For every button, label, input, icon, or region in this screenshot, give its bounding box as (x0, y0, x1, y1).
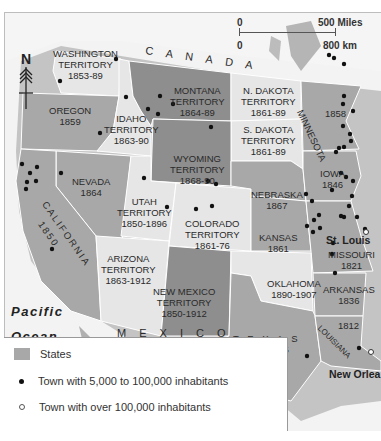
scale-miles-zero: 0 (237, 17, 243, 28)
region-idaho: IDAHOTERRITORY1863-90 (104, 113, 159, 146)
region-oklahoma: OKLAHOMA1890-1907 (267, 278, 321, 300)
city-new-orleans: New Orlea (329, 368, 380, 380)
filled-dot-icon (19, 379, 24, 384)
region-kansas: KANSAS1861 (259, 232, 298, 254)
region-colorado: COLORADOTERRITORY1861-76 (185, 218, 240, 251)
legend-item-town-large: Town with over 100,000 inhabitants (14, 401, 211, 413)
label-pacific: Pacific (11, 304, 63, 319)
region-iowa: IOWA1846 (320, 168, 345, 190)
compass: N (19, 51, 33, 113)
legend-item-town-small: Town with 5,000 to 100,000 inhabitants (14, 375, 228, 387)
legend: States Town with 5,000 to 100,000 inhabi… (4, 337, 288, 431)
region-ndakota: N. DAKOTATERRITORY1861-89 (241, 85, 296, 118)
states-swatch-icon (14, 348, 30, 360)
region-washington: WASHINGTONTERRITORY1853-89 (53, 48, 118, 81)
region-louisiana-year: 1812 (338, 320, 359, 331)
scale-km-zero: 0 (237, 40, 243, 51)
region-nebraska: NEBRASKA1867 (251, 189, 303, 211)
region-newmexico: NEW MEXICOTERRITORY1850-1912 (153, 286, 215, 319)
region-sdakota: S. DAKOTATERRITORY1861-89 (241, 124, 296, 157)
region-utah: UTAHTERRITORY1850-1896 (117, 196, 172, 229)
region-nevada: NEVADA1864 (72, 176, 110, 198)
scale-miles-label: 500 Miles (318, 17, 362, 28)
region-arkansas: ARKANSAS1836 (323, 284, 375, 306)
north-label: N (19, 51, 33, 67)
region-arizona: ARIZONATERRITORY1863-1912 (101, 253, 156, 286)
north-arrow-icon (19, 67, 33, 109)
region-missouri: MISSOURI1821 (328, 249, 375, 271)
region-oregon: OREGON1859 (49, 105, 91, 127)
region-wyoming: WYOMINGTERRITORY1868-90 (170, 153, 225, 186)
scale-km-label: 800 km (323, 40, 357, 51)
open-dot-icon (19, 404, 25, 410)
region-minnesota-year: 1858 (325, 108, 346, 119)
region-montana: MONTANATERRITORY1864-89 (170, 85, 225, 118)
city-st-louis: St. Louis (326, 234, 370, 246)
legend-item-states: States (14, 348, 71, 360)
